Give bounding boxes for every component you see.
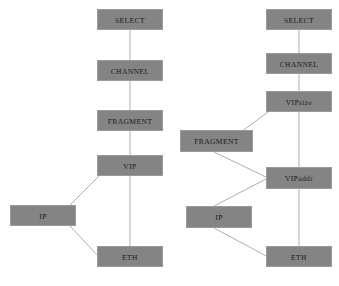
node-r-ip[interactable]: IP [186, 206, 252, 228]
node-l-eth[interactable]: ETH [97, 246, 163, 267]
node-r-vipsize[interactable]: VIPsize [266, 91, 332, 112]
node-label-l-eth: ETH [122, 253, 138, 261]
node-label-r-select: SELECT [284, 16, 314, 24]
node-l-channel[interactable]: CHANNEL [97, 60, 163, 81]
edge-layer [0, 0, 339, 286]
edge-l-ip-to-l-vip [70, 176, 99, 205]
node-label-l-fragment: FRAGMENT [108, 117, 152, 125]
node-r-channel[interactable]: CHANNEL [266, 53, 332, 74]
node-label-r-eth: ETH [291, 253, 307, 261]
edge-r-fragment-to-r-vipaddr [214, 152, 268, 178]
diagram-canvas: SELECTCHANNELFRAGMENTVIPIPETHSELECTCHANN… [0, 0, 339, 286]
node-label-r-fragment: FRAGMENT [194, 138, 238, 146]
node-label-l-select: SELECT [115, 16, 145, 24]
node-l-vip[interactable]: VIP [97, 155, 163, 176]
node-label-r-vipsize: VIPsize [286, 98, 313, 106]
node-l-fragment[interactable]: FRAGMENT [97, 110, 163, 131]
node-r-eth[interactable]: ETH [266, 246, 332, 267]
edge-r-ip-to-r-vipaddr [214, 178, 268, 206]
node-label-r-ip: IP [215, 214, 222, 222]
node-label-r-channel: CHANNEL [280, 60, 319, 68]
node-label-l-vip: VIP [123, 162, 136, 170]
node-r-select[interactable]: SELECT [266, 9, 332, 30]
node-r-vipaddr[interactable]: VIPaddr [266, 167, 332, 189]
edge-r-ip-to-r-eth [214, 228, 268, 257]
edge-l-ip-to-l-eth [70, 226, 99, 257]
node-label-l-ip: IP [39, 212, 46, 220]
node-label-r-vipaddr: VIPaddr [285, 175, 313, 183]
node-label-l-channel: CHANNEL [111, 67, 150, 75]
node-l-select[interactable]: SELECT [97, 9, 163, 30]
node-r-fragment[interactable]: FRAGMENT [180, 130, 253, 152]
node-l-ip[interactable]: IP [10, 205, 76, 226]
